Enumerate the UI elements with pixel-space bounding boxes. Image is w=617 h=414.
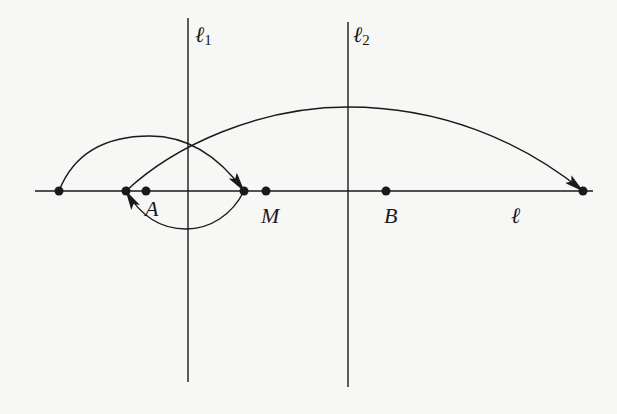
label-m: M xyxy=(261,205,279,227)
point-p3 xyxy=(579,187,588,196)
label-l2: ℓ2 xyxy=(353,24,370,48)
label-a: A xyxy=(145,198,158,220)
point-a xyxy=(142,187,151,196)
diagram-svg xyxy=(0,0,617,414)
point-p0 xyxy=(55,187,64,196)
label-l: ℓ xyxy=(511,205,520,227)
point-p2 xyxy=(240,187,249,196)
reflection-diagram: ℓ1 ℓ2 A M B ℓ xyxy=(0,0,617,414)
point-p1 xyxy=(122,187,131,196)
label-b: B xyxy=(384,205,397,227)
point-b xyxy=(382,187,391,196)
label-l1: ℓ1 xyxy=(195,24,212,48)
arrow-arc-p2-to-p1 xyxy=(126,191,244,229)
point-m xyxy=(262,187,271,196)
arrow-arc-p0-to-p2 xyxy=(59,136,244,191)
arrow-arc-p1-to-p3 xyxy=(126,107,583,191)
